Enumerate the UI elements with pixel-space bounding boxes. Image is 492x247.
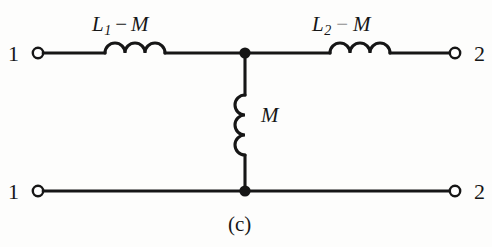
inductor-left-label-symbol: L: [92, 12, 104, 36]
inductor-right-label-symbol: L: [312, 12, 324, 36]
inductor-left-label-operator: −: [111, 12, 131, 36]
terminal-open-circle-top-left: [33, 48, 43, 58]
inductor-left-label-operand: M: [131, 12, 149, 36]
figure-caption: (c): [228, 214, 251, 235]
junction-dot-top: [239, 47, 250, 58]
terminal-open-circle-bottom-right: [450, 186, 460, 196]
inductor-coil-shunt: [235, 95, 245, 155]
terminal-label-top-left: 1: [8, 43, 19, 65]
terminal-label-top-right: 2: [474, 43, 485, 65]
inductor-right-label-operator: −: [331, 12, 353, 36]
junction-dot-bottom: [239, 185, 250, 196]
terminal-open-circle-top-right: [450, 48, 460, 58]
terminal-label-bottom-right: 2: [474, 181, 485, 203]
circuit-schematic: [0, 0, 492, 247]
circuit-figure: 1 2 1 2 L1−M L2−M M (c): [0, 0, 492, 247]
inductor-coil-right: [330, 43, 390, 53]
inductor-shunt-label: M: [261, 105, 279, 126]
terminal-open-circle-bottom-left: [33, 186, 43, 196]
inductor-right-label-operand: M: [353, 12, 371, 36]
inductor-left-label: L1−M: [92, 14, 149, 38]
inductor-right-label: L2−M: [312, 14, 371, 38]
inductor-coil-left: [105, 43, 165, 53]
terminal-label-bottom-left: 1: [8, 181, 19, 203]
